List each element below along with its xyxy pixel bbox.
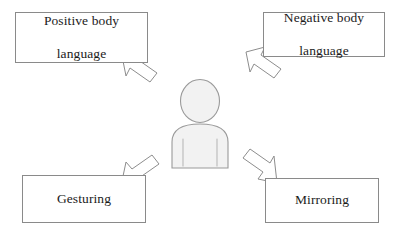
diagram-canvas: Positive body language Negative body lan… [0, 0, 399, 236]
label-box-mirroring-text: Mirroring [291, 192, 353, 208]
label-box-negative-body-language-text: Negative body language [276, 10, 372, 59]
label-box-gesturing[interactable]: Gesturing [22, 175, 146, 223]
label-line-1: Positive body [40, 13, 123, 29]
label-box-negative-body-language[interactable]: Negative body language [263, 12, 385, 57]
label-line-2: language [280, 43, 368, 59]
label-line-1: Negative body [280, 10, 368, 26]
label-box-positive-body-language-text: Positive body language [36, 13, 127, 62]
person-torso-icon [172, 124, 228, 168]
label-box-mirroring[interactable]: Mirroring [265, 178, 379, 223]
label-line-2: language [40, 46, 123, 62]
person-head-icon [181, 80, 220, 123]
label-box-gesturing-text: Gesturing [53, 191, 115, 207]
label-box-positive-body-language[interactable]: Positive body language [15, 12, 148, 63]
